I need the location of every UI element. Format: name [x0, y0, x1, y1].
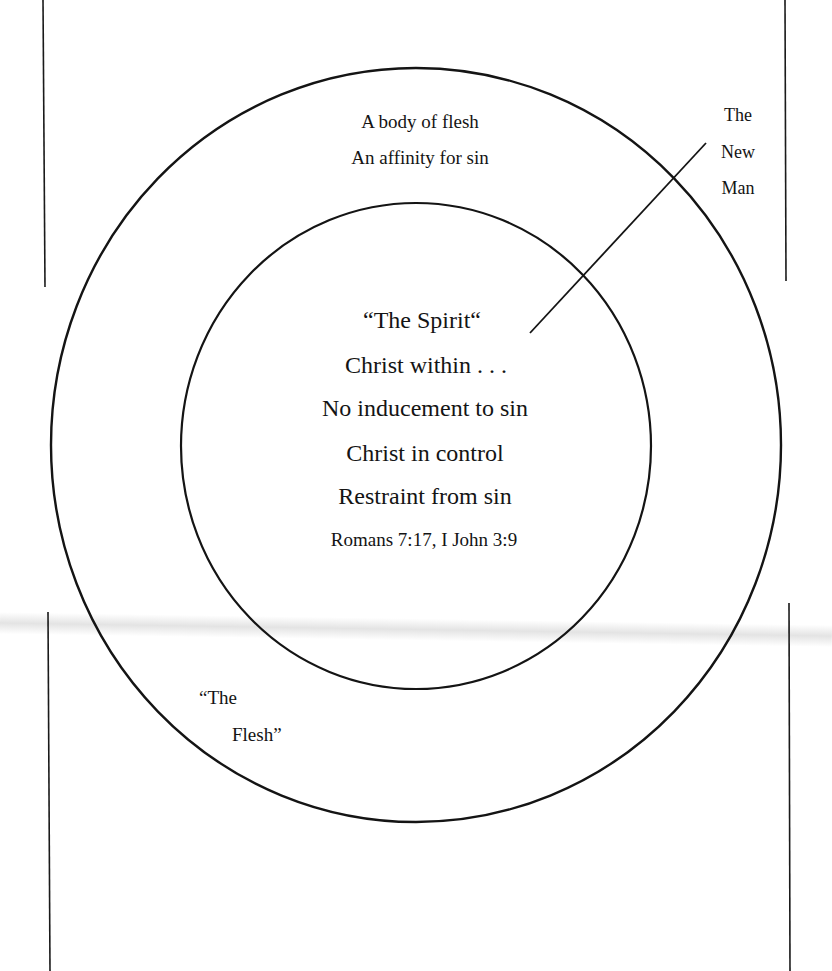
border-line-left-top [43, 0, 45, 287]
border-line-left-bottom [48, 612, 50, 971]
inner-scripture-reference: Romans 7:17, I John 3:9 [331, 530, 517, 549]
outer-description-line-1: A body of flesh [361, 112, 479, 131]
new-man-pointer-line [530, 143, 706, 333]
flesh-label-line-2: Flesh” [232, 725, 282, 744]
new-man-label-line-2: New [721, 143, 755, 161]
flesh-label-line-1: “The [199, 688, 237, 707]
border-line-right-top [785, 0, 786, 281]
inner-line-christ-in-control: Christ in control [346, 441, 503, 465]
border-line-right-bottom [789, 603, 790, 971]
inner-line-no-inducement: No inducement to sin [322, 396, 528, 420]
inner-title-spirit: “The Spirit“ [363, 308, 481, 332]
inner-line-christ-within: Christ within . . . [345, 353, 507, 377]
new-man-label-line-3: Man [722, 179, 755, 197]
inner-line-restraint: Restraint from sin [338, 484, 511, 508]
new-man-label-line-1: The [724, 106, 752, 124]
outer-description-line-2: An affinity for sin [351, 148, 488, 167]
